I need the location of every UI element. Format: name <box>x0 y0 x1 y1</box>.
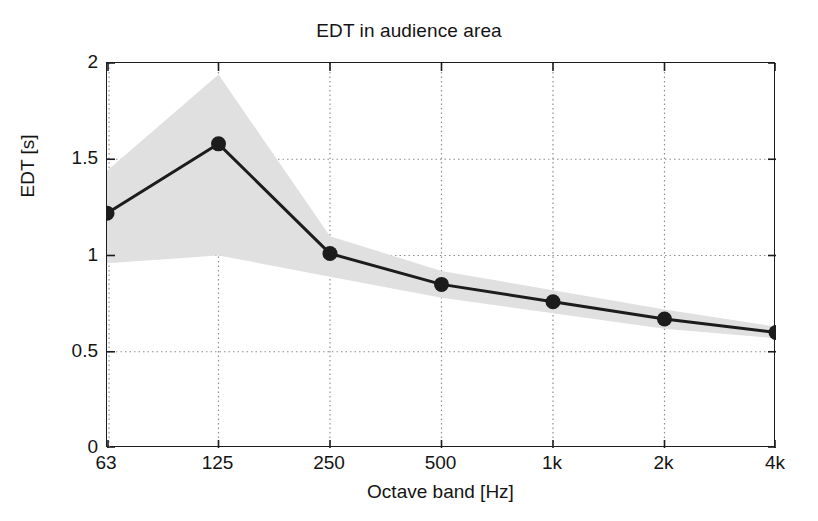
chart-title: EDT in audience area <box>0 20 818 42</box>
x-tick-label: 2k <box>619 452 709 474</box>
chart-figure: EDT in audience area 00.511.52 631252505… <box>0 0 818 521</box>
confidence-band <box>107 75 776 339</box>
x-tick-label: 4k <box>730 452 818 474</box>
x-tick-label: 63 <box>61 452 151 474</box>
x-tick-label: 250 <box>284 452 374 474</box>
data-point-marker <box>657 312 672 327</box>
x-tick-label: 1k <box>507 452 597 474</box>
data-point-marker <box>546 294 561 309</box>
data-point-marker <box>323 246 338 261</box>
plot-svg <box>107 63 776 448</box>
plot-area <box>106 62 775 447</box>
y-tick-label: 0.5 <box>0 340 110 362</box>
x-tick-label: 500 <box>396 452 486 474</box>
x-tick-label: 125 <box>173 452 263 474</box>
data-point-marker <box>211 136 226 151</box>
y-axis-label: EDT [s] <box>17 66 39 266</box>
data-point-marker <box>434 277 449 292</box>
x-axis-label: Octave band [Hz] <box>106 481 775 503</box>
